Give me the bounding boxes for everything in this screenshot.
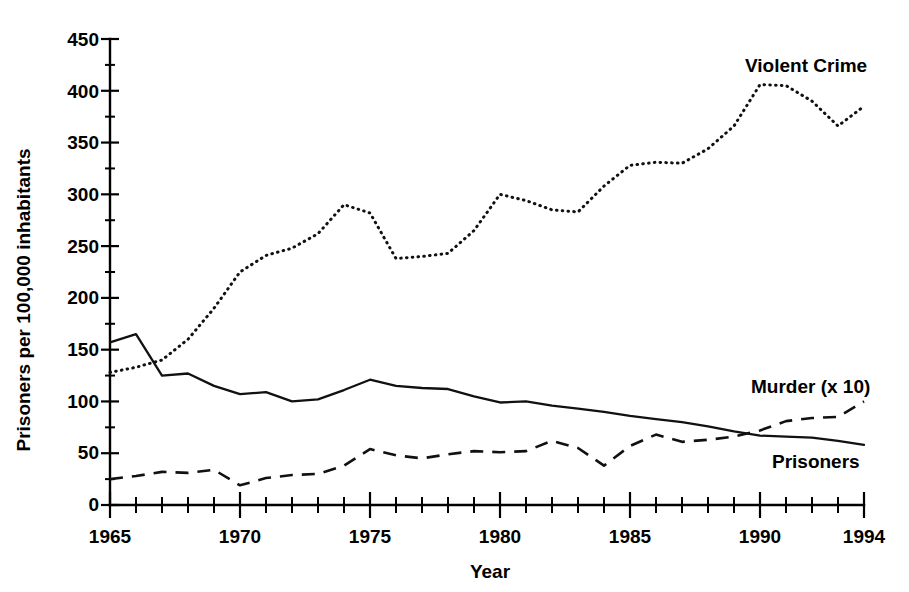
series-label-prisoners: Prisoners <box>772 451 860 472</box>
y-tick-label: 450 <box>67 29 99 50</box>
y-tick-label: 50 <box>78 442 99 463</box>
y-tick-label: 200 <box>67 287 99 308</box>
y-tick-label: 150 <box>67 339 99 360</box>
y-tick-labels: 450 400 350 300 250 200 150 100 50 0 <box>67 29 99 515</box>
y-tick-label: 100 <box>67 391 99 412</box>
y-tick-label: 300 <box>67 184 99 205</box>
x-tick-label: 1980 <box>479 526 521 547</box>
x-tick-label: 1970 <box>219 526 261 547</box>
data-series-layer <box>110 85 864 486</box>
series-line-murder-x-10 <box>110 401 864 485</box>
series-label-violent-crime: Violent Crime <box>745 55 867 76</box>
y-axis-title: Prisoners per 100,000 inhabitants <box>13 148 34 451</box>
y-tick-label: 400 <box>67 81 99 102</box>
chart-canvas: Prisoners per 100,000 inhabitants 450 40… <box>0 0 909 592</box>
y-tick-label: 350 <box>67 132 99 153</box>
axis-lines <box>101 39 864 518</box>
x-axis-title: Year <box>470 561 511 582</box>
chart-figure: Prisoners per 100,000 inhabitants 450 40… <box>0 0 909 592</box>
x-tick-label: 1975 <box>349 526 392 547</box>
series-label-murder: Murder (x 10) <box>751 376 870 397</box>
x-tick-label: 1985 <box>609 526 652 547</box>
series-line-violent-crime <box>110 85 864 373</box>
x-tick-label: 1965 <box>89 526 132 547</box>
y-tick-label: 0 <box>88 494 99 515</box>
x-tick-label: 1994 <box>843 526 886 547</box>
x-tick-labels: 1965 1970 1975 1980 1985 1990 1994 <box>89 526 886 547</box>
y-tick-label: 250 <box>67 236 99 257</box>
x-tick-label: 1990 <box>739 526 781 547</box>
